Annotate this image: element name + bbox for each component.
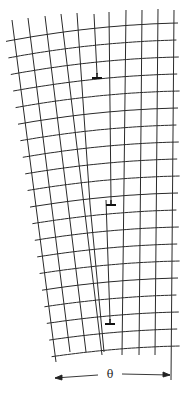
lattice-row (8, 40, 176, 58)
edge-dislocation-icon (92, 73, 102, 78)
lattice-row (23, 142, 179, 157)
lattice-row (6, 23, 178, 41)
lattice-row (20, 125, 176, 141)
lattice-column (109, 12, 111, 200)
lattice-diagram (0, 0, 185, 394)
lattice-column (77, 13, 90, 204)
lattice-column (106, 200, 110, 320)
lattice-row (16, 91, 180, 108)
lattice-row (25, 159, 177, 174)
lattice-row (11, 57, 179, 75)
lattice-row (18, 108, 178, 124)
theta-label: θ (103, 368, 117, 382)
lattice-row (13, 74, 177, 91)
lattice-column (171, 10, 174, 380)
lattice-column (155, 9, 158, 355)
lattice-rows (6, 23, 180, 357)
lattice-column (94, 14, 97, 74)
edge-dislocation-icon (105, 319, 115, 324)
lattice-column (122, 10, 126, 355)
lattice-row (30, 193, 178, 207)
lattice-row (52, 346, 180, 357)
arrowhead-right-icon (163, 372, 170, 377)
lattice-column (139, 10, 142, 355)
lattice-row (40, 261, 180, 274)
edge-dislocation-icon (106, 200, 116, 205)
lattice-column (90, 204, 104, 352)
lattice-column (45, 16, 86, 352)
arrowhead-left-icon (55, 375, 62, 380)
